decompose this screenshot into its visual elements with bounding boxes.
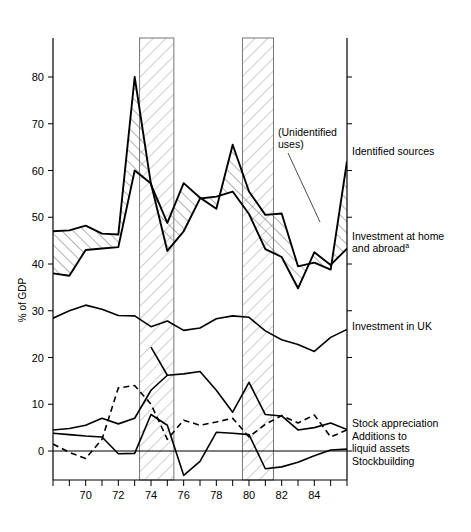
y-tick-label: 50 — [32, 211, 44, 223]
chart-figure: 01020304050607080 7072747678808284 % of … — [0, 0, 471, 532]
recession-band-1 — [140, 38, 174, 480]
x-tick-label: 78 — [210, 489, 222, 501]
x-tick-label: 82 — [276, 489, 288, 501]
y-tick-label: 80 — [32, 71, 44, 83]
label-additions-liquid-line1: Additions to — [352, 430, 407, 442]
x-tick-label: 74 — [145, 489, 157, 501]
series-label-identified-sources: Identified sources — [352, 145, 434, 157]
series-label-stock-appreciation: Stock appreciation — [352, 417, 439, 429]
label-stock-appreciation: Stock appreciation — [352, 417, 439, 429]
y-tick-label: 40 — [32, 258, 44, 270]
label-investment-uk: Investment in UK — [352, 320, 432, 332]
series-label-additions-liquid-assets: Additions to liquid assets — [352, 430, 410, 454]
y-tick-label: 70 — [32, 118, 44, 130]
label-stockbuilding: Stockbuilding — [352, 455, 415, 467]
x-tick-label: 72 — [112, 489, 124, 501]
x-tick-label: 80 — [243, 489, 255, 501]
unidentified-uses-label-line2: uses) — [278, 138, 304, 150]
y-tick-label: 60 — [32, 165, 44, 177]
y-tick-label: 30 — [32, 305, 44, 317]
recession-band-2 — [242, 38, 273, 480]
y-tick-label: 0 — [38, 445, 44, 457]
unidentified-uses-label-line1: (Unidentified — [278, 126, 337, 138]
y-tick-label: 10 — [32, 398, 44, 410]
label-investment-home-abroad-line1: Investment at home — [352, 230, 444, 242]
x-tick-label: 76 — [178, 489, 190, 501]
y-axis-title: % of GDP — [17, 277, 28, 322]
series-label-stockbuilding: Stockbuilding — [352, 455, 415, 467]
x-tick-label: 84 — [308, 489, 320, 501]
footnote-marker-a: a — [405, 242, 409, 249]
label-investment-home-abroad-line2: and abroada — [352, 242, 409, 254]
series-label-investment-uk: Investment in UK — [352, 320, 432, 332]
label-investment-home-abroad-line2-text: and abroad — [352, 242, 405, 254]
label-identified-sources: Identified sources — [352, 145, 434, 157]
label-additions-liquid-line2: liquid assets — [352, 442, 410, 454]
x-tick-label: 70 — [80, 489, 92, 501]
y-tick-label: 20 — [32, 352, 44, 364]
